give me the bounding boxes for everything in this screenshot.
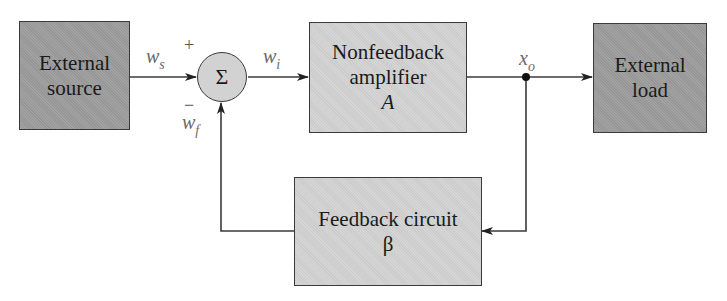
external-load-block: External load: [593, 23, 707, 133]
signal-label-xo: xo: [519, 48, 535, 77]
ws-base: w: [146, 45, 159, 67]
summing-junction: Σ: [197, 52, 247, 102]
feedback-line1: Feedback circuit: [318, 207, 457, 232]
amplifier-line1: Nonfeedback: [332, 40, 444, 65]
arrow-wf: [221, 103, 294, 231]
plus-sign: +: [184, 36, 194, 54]
amplifier-symbol: A: [382, 90, 395, 115]
nonfeedback-amplifier-block: Nonfeedback amplifier A: [309, 22, 467, 133]
xo-sub: o: [528, 59, 535, 74]
external-load-line1: External: [614, 53, 685, 78]
xo-base: x: [519, 47, 528, 69]
ws-sub: s: [159, 57, 164, 72]
signal-label-wi: wi: [263, 46, 280, 75]
signal-label-wf: wf: [182, 112, 199, 141]
feedback-circuit-block: Feedback circuit β: [294, 177, 482, 286]
external-load-line2: load: [632, 78, 668, 103]
external-source-block: External source: [19, 21, 130, 130]
external-source-line1: External: [39, 51, 110, 76]
external-source-line2: source: [47, 76, 102, 101]
wf-sub: f: [195, 123, 199, 138]
signal-label-ws: ws: [146, 46, 165, 75]
sigma-symbol: Σ: [216, 64, 229, 90]
arrow-to-feedback: [482, 77, 526, 231]
wi-sub: i: [276, 57, 280, 72]
wi-base: w: [263, 45, 276, 67]
feedback-symbol: β: [383, 232, 394, 257]
amplifier-line2: amplifier: [350, 65, 427, 90]
wf-base: w: [182, 111, 195, 133]
